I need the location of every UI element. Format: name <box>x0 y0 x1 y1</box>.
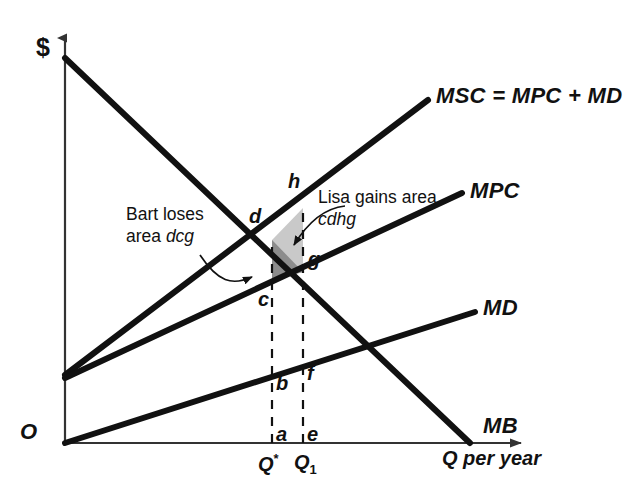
quantity-qstar-sup: * <box>274 451 279 466</box>
point-label-e: e <box>307 424 318 444</box>
annotation-bart-line2: area dcg <box>126 226 204 248</box>
point-label-g: g <box>308 249 320 269</box>
quantity-qstar-base: Q <box>258 453 274 475</box>
curve-label-msc: MSC = MPC + MD <box>436 85 622 107</box>
annotation-bart-prefix: area <box>126 226 166 246</box>
economics-diagram <box>0 0 640 490</box>
point-label-a: a <box>276 424 287 444</box>
point-label-b: b <box>276 373 288 393</box>
quantity-q1-base: Q <box>294 451 310 473</box>
point-label-d: d <box>249 206 261 226</box>
quantity-q1-sub: 1 <box>310 462 317 477</box>
quantity-label-q1: Q1 <box>294 452 317 476</box>
annotation-bart: Bart loses area dcg <box>126 204 204 248</box>
annotation-lisa-area: cdhg <box>318 209 356 229</box>
y-axis-title: $ <box>36 35 50 60</box>
annotation-lisa: Lisa gains area cdhg <box>318 187 437 231</box>
figure-container: $ O Q per year MSC = MPC + MD MPC MD MB … <box>0 0 640 490</box>
point-label-c: c <box>258 289 269 309</box>
point-label-f: f <box>307 363 314 383</box>
annotation-bart-area: dcg <box>166 226 194 246</box>
origin-label: O <box>20 421 37 443</box>
curve-label-mpc: MPC <box>470 180 520 202</box>
point-label-h: h <box>288 171 300 191</box>
annotation-lisa-line1: Lisa gains area <box>318 187 437 209</box>
quantity-label-qstar: Q* <box>258 452 279 474</box>
curve-label-md: MD <box>483 297 518 319</box>
annotation-bart-line1: Bart loses <box>126 204 204 226</box>
annotation-lisa-line2: cdhg <box>318 209 437 231</box>
x-axis-title: Q per year <box>442 448 541 468</box>
curve-label-mb: MB <box>483 415 518 437</box>
